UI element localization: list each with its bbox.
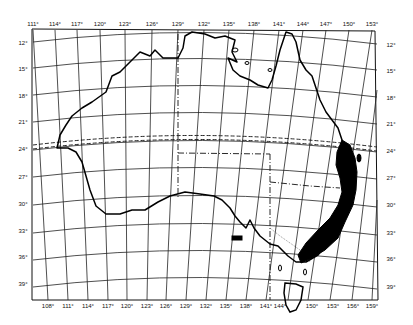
lat-label-right: 18° [386,95,395,101]
lat-label-right: 12° [386,42,395,48]
lon-label-bottom: 108° [42,303,54,309]
lat-label-left: 36° [18,254,27,260]
lat-label-right: 30° [386,202,395,208]
lat-label-right: 15° [386,68,395,74]
lon-label-top: 123° [119,21,131,27]
latitude-lines [33,32,377,289]
longitude-lines [33,30,377,300]
lon-label-bottom: 150° [306,303,318,309]
lon-label-bottom: 117° [102,303,114,309]
lon-label-top: 147° [320,21,332,27]
lat-label-left: 30° [18,201,27,207]
lon-label-top: 153° [366,21,378,27]
lat-label-left: 18° [18,93,27,99]
lon-label-top: 114° [49,21,61,27]
lon-label-top: 129° [172,21,184,27]
lon-label-top: 120° [94,21,106,27]
lat-label-left: 12° [18,40,27,46]
map-frame [32,29,378,300]
lon-label-top: 150° [343,21,355,27]
lat-label-right: 21° [386,121,395,127]
lon-label-top: 111° [27,21,39,27]
tasmania [284,283,303,312]
lon-label-top: 135° [223,21,235,27]
lon-label-bottom: 159° [366,303,378,309]
lon-label-bottom: 120° [121,303,133,309]
lon-label-top: 138° [248,21,260,27]
lat-label-right: 33° [386,230,395,236]
tropic-of-capricorn [33,135,377,151]
lat-label-right: 27° [386,175,395,181]
lon-label-bottom: 123° [141,303,153,309]
lon-label-bottom: 132° [200,303,212,309]
lon-label-bottom: 135° [220,303,232,309]
islands [232,48,307,275]
lat-label-left: 39° [18,281,27,287]
state-borders [178,34,340,300]
lon-label-bottom: 153° [327,303,339,309]
australia-distribution-map: 111° 114° 117° 120° 123° 126° 129° 132° … [0,0,413,325]
lat-label-left: 27° [18,174,27,180]
lat-label-left: 33° [18,228,27,234]
lon-label-top: 132° [198,21,210,27]
lon-label-top: 117° [71,21,83,27]
lat-label-right: 39° [386,284,395,290]
lon-label-bottom: 126° [160,303,172,309]
lon-label-bottom: 114° [82,303,94,309]
lat-label-right: 24° [386,148,395,154]
lat-label-left: 24° [18,146,27,152]
lon-label-bottom: 111° [62,303,74,309]
lon-label-top: 126° [146,21,158,27]
lon-label-bottom: 141° [260,303,272,309]
lon-label-top: 141° [273,21,285,27]
lat-label-left: 15° [18,66,27,72]
kangaroo-island [232,236,242,240]
lon-label-bottom: 138° [240,303,252,309]
map-canvas [0,0,413,325]
lon-label-top: 144° [297,21,309,27]
lat-label-right: 36° [386,256,395,262]
lat-label-left: 21° [18,119,27,125]
lon-label-bottom: 144° [274,303,286,309]
lon-label-bottom: 156° [347,303,359,309]
lon-label-bottom: 129° [180,303,192,309]
